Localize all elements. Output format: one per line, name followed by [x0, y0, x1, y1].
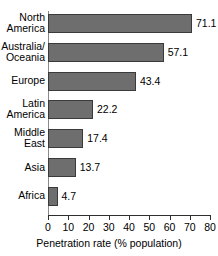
bar: [48, 14, 192, 33]
x-tick: [68, 215, 69, 220]
x-tick: [129, 215, 130, 220]
x-tick: [89, 215, 90, 220]
x-tick: [170, 215, 171, 220]
category-label-line: America: [0, 23, 45, 34]
x-tick: [149, 215, 150, 220]
category-label: Africa: [0, 190, 45, 201]
bar-value-label: 57.1: [168, 43, 188, 62]
x-tick-label: 70: [180, 221, 200, 233]
category-label-line: Oceania: [0, 52, 45, 63]
category-label: LatinAmerica: [0, 98, 45, 120]
category-label-line: East: [0, 138, 45, 149]
bar-value-label: 43.4: [140, 72, 160, 91]
category-label: NorthAmerica: [0, 12, 45, 34]
category-label: Europe: [0, 75, 45, 86]
x-tick-label: 10: [58, 221, 78, 233]
x-tick: [48, 215, 49, 220]
x-tick: [190, 215, 191, 220]
x-tick-label: 30: [99, 221, 119, 233]
bar-value-label: 22.2: [97, 100, 117, 119]
x-tick-label: 0: [38, 221, 58, 233]
bar: [48, 187, 58, 206]
bar: [48, 129, 83, 148]
bar-value-label: 71.1: [196, 14, 216, 33]
bar: [48, 43, 164, 62]
bar: [48, 72, 136, 91]
category-label: Australia/Oceania: [0, 41, 45, 63]
bar-value-label: 17.4: [87, 129, 107, 148]
x-tick-label: 40: [119, 221, 139, 233]
x-axis-title: Penetration rate (% population): [0, 237, 218, 249]
plot-area: NorthAmerica71.1Australia/Oceania57.1Eur…: [0, 0, 218, 256]
bar-chart: NorthAmerica71.1Australia/Oceania57.1Eur…: [0, 0, 218, 256]
bar-value-label: 13.7: [80, 158, 100, 177]
bar: [48, 100, 93, 119]
category-label-line: Europe: [0, 75, 45, 86]
category-label-line: Africa: [0, 190, 45, 201]
x-tick: [109, 215, 110, 220]
x-tick-label: 20: [79, 221, 99, 233]
category-label: MiddleEast: [0, 127, 45, 149]
x-tick: [210, 215, 211, 220]
bar: [48, 158, 76, 177]
x-tick-label: 50: [139, 221, 159, 233]
x-tick-label: 60: [160, 221, 180, 233]
bar-value-label: 4.7: [62, 187, 77, 206]
category-label-line: America: [0, 109, 45, 120]
x-tick-label: 80: [200, 221, 218, 233]
category-label-line: Asia: [0, 162, 45, 173]
category-label: Asia: [0, 162, 45, 173]
